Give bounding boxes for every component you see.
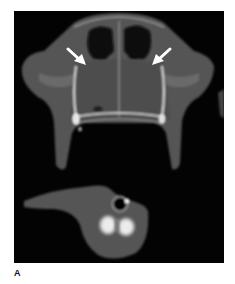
edge-tissue: [218, 89, 224, 119]
neck-section: [24, 185, 148, 258]
ct-scan-image: [14, 11, 224, 263]
panel-label: A: [14, 268, 21, 278]
